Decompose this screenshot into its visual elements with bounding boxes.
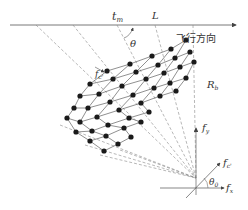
grid-point [138, 100, 143, 105]
grid-point [130, 92, 135, 97]
grid-point [87, 138, 92, 143]
grid-point [149, 53, 154, 58]
grid-point [128, 134, 133, 139]
Rb-label: Rb [206, 79, 219, 91]
grid-point [167, 80, 172, 85]
grid-point [155, 62, 160, 67]
grid-point [161, 70, 166, 75]
grid-point [127, 61, 132, 66]
grid-point [121, 125, 126, 130]
grid-point [172, 55, 177, 60]
grid-point [138, 119, 143, 124]
grid-point [85, 105, 90, 110]
grid-point [77, 93, 82, 98]
grid-point [151, 85, 156, 90]
grid-point [157, 93, 162, 98]
theta0-label: θ0 [209, 177, 218, 188]
grid-point [94, 114, 99, 119]
grid-point [143, 76, 148, 81]
grid-point [126, 115, 131, 120]
grid-point [104, 68, 109, 73]
grid-point [101, 148, 106, 153]
tm-label: tm [112, 10, 123, 24]
grid-point [187, 49, 192, 54]
grid-point [146, 109, 151, 114]
grid-point [133, 69, 138, 74]
fx-label: fx [225, 182, 234, 194]
theta-arc [124, 28, 133, 38]
grid-point [73, 129, 78, 134]
grid-point [191, 59, 196, 64]
grid-point [64, 115, 69, 120]
sar-geometry-diagram: tm L θ 飞行方向 Rb fy fc' θ0 fx fc' [0, 0, 248, 210]
grid-point [173, 88, 178, 93]
grid-point [110, 76, 115, 81]
grid-point [103, 133, 108, 138]
fc-label: fc' [222, 157, 232, 169]
theta0-arc [204, 178, 208, 188]
flight-direction-label: 飞行方向 [176, 32, 216, 44]
grid-point [87, 81, 92, 86]
grid-point [119, 83, 124, 88]
grid-point [105, 122, 110, 127]
grid-point [96, 91, 101, 96]
fc-grid-label: fc' [94, 69, 104, 80]
grid-point [183, 75, 188, 80]
L-label: L [151, 10, 159, 21]
grid-point [71, 105, 76, 110]
grid-point [116, 107, 121, 112]
grid-point [89, 128, 94, 133]
theta-label: θ [130, 38, 136, 49]
grid-point [77, 119, 82, 124]
grid-point [107, 99, 112, 104]
grid-point [168, 46, 173, 51]
fy-label: fy [201, 122, 210, 135]
grid-point [177, 64, 182, 69]
grid-point [115, 141, 120, 146]
